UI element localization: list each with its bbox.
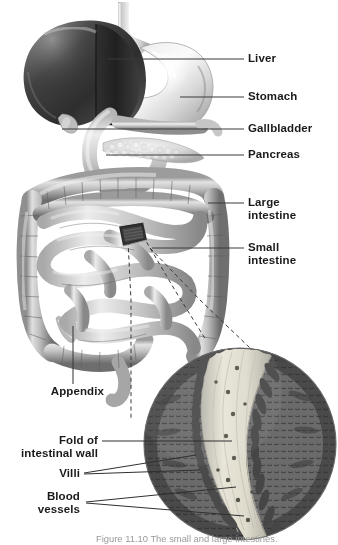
label-large-intestine: Large intestine — [248, 196, 296, 222]
label-liver: Liver — [248, 52, 276, 65]
label-appendix: Appendix — [0, 385, 104, 398]
label-villi: Villi — [0, 467, 80, 480]
label-pancreas: Pancreas — [248, 148, 300, 161]
label-gallbladder: Gallbladder — [248, 122, 312, 135]
digestive-system-illustration — [0, 0, 338, 545]
figure-caption: Figure 11.10 The small and large intesti… — [96, 533, 278, 544]
label-small-intestine: Small intestine — [248, 241, 296, 267]
liver-shape — [24, 20, 146, 133]
figure-canvas: Liver Stomach Gallbladder Pancreas Large… — [0, 0, 338, 545]
pancreas-shape — [103, 138, 204, 163]
villi-inset — [134, 318, 336, 542]
label-blood-vessels: Blood vessels — [0, 490, 80, 516]
label-fold-of-intestinal-wall: Fold of intestinal wall — [0, 434, 98, 460]
label-stomach: Stomach — [248, 90, 297, 103]
